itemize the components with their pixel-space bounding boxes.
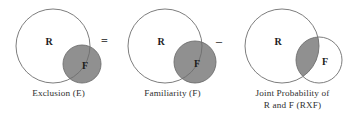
venn-svg-exclusion: R F [0, 0, 117, 88]
caption-familiarity: Familiarity (F) [114, 88, 231, 100]
label-f-familiarity: F [194, 58, 200, 69]
panel-familiarity: R F Familiarity (F) [114, 0, 231, 119]
venn-svg-joint: R F [234, 0, 351, 88]
operator-minus: – [216, 35, 222, 47]
label-r-familiarity: R [157, 36, 165, 47]
venn-diagram-figure: R F Exclusion (E) = R F Familiarity (F) … [0, 0, 351, 119]
caption-joint-line-1: Joint Probability of [234, 88, 351, 100]
venn-svg-familiarity: R F [114, 0, 231, 88]
label-f-exclusion: F [82, 60, 88, 71]
caption-joint: Joint Probability of R and F (RXF) [234, 88, 351, 111]
label-r-exclusion: R [45, 36, 53, 47]
caption-familiarity-line-1: Familiarity (F) [114, 88, 231, 100]
panel-exclusion: R F Exclusion (E) [0, 0, 117, 119]
caption-exclusion: Exclusion (E) [0, 88, 117, 100]
label-r-joint: R [274, 36, 282, 47]
panel-joint: R F Joint Probability of R and F (RXF) [234, 0, 351, 119]
label-f-joint: F [322, 56, 328, 67]
caption-exclusion-line-1: Exclusion (E) [0, 88, 117, 100]
operator-equals: = [101, 35, 108, 47]
caption-joint-line-2: R and F (RXF) [234, 100, 351, 112]
